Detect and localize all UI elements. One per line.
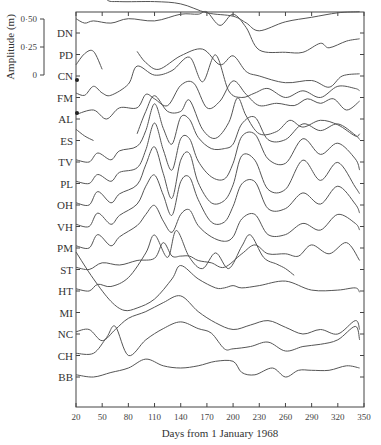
curve-st (76, 243, 360, 270)
curve-cn (137, 49, 360, 87)
x-tick-290: 290 (305, 412, 319, 422)
plot-frame (76, 12, 364, 407)
curve-oh (76, 147, 360, 206)
curve-bb (76, 359, 360, 377)
x-tick-350: 350 (357, 412, 371, 422)
curve-vh (76, 175, 360, 227)
y-axis-label: Amplitude (m) (4, 14, 17, 80)
curve-al (76, 81, 360, 119)
x-tick-170: 170 (200, 412, 214, 422)
x-tick-140: 140 (174, 412, 188, 422)
curve-tv (76, 104, 360, 162)
curve-dn (76, 0, 360, 31)
curve-ht (76, 231, 294, 292)
x-axis-label: Days from 1 January 1968 (162, 427, 279, 439)
x-tick-20: 20 (72, 412, 82, 422)
station-label-es: ES (60, 135, 73, 147)
station-label-al: AL (58, 113, 73, 125)
scale-tick-025: 0·25 (21, 42, 38, 52)
station-label-pd: PD (59, 49, 73, 61)
station-curves (75, 0, 360, 377)
station-label-bb: BB (58, 371, 73, 383)
x-tick-230: 230 (253, 412, 267, 422)
marker-dot-cn (75, 78, 79, 82)
station-label-pm: PM (57, 242, 73, 254)
curve-pm (76, 205, 360, 248)
x-tick-80: 80 (124, 412, 134, 422)
station-label-tv: TV (58, 156, 73, 168)
station-label-nc: NC (58, 328, 73, 340)
station-label-pl: PL (60, 178, 73, 190)
x-tick-260: 260 (279, 412, 293, 422)
x-tick-200: 200 (226, 412, 240, 422)
amplitude-chart: 0·50 0·25 0 Amplitude (m) DNPDCNFMALESTV… (0, 0, 381, 445)
station-label-st: ST (60, 264, 73, 276)
curve-es (76, 129, 94, 140)
curve-pd (76, 11, 360, 53)
curve-mi (76, 252, 360, 311)
curve-fm (76, 55, 360, 98)
station-label-dn: DN (57, 27, 73, 39)
station-label-vh: VH (57, 221, 73, 233)
station-label-cn: CN (58, 70, 73, 82)
x-tick-110: 110 (148, 412, 162, 422)
marker-dot-al (75, 111, 79, 115)
curve-cn (76, 50, 102, 69)
amplitude-scale: 0·50 0·25 0 Amplitude (m) (4, 14, 44, 80)
curve-pl (76, 123, 360, 184)
station-label-fm: FM (57, 92, 73, 104)
station-label-ch: CH (58, 350, 73, 362)
station-label-ht: HT (58, 285, 73, 297)
scale-tick-0: 0 (33, 70, 38, 80)
station-label-mi: MI (60, 307, 74, 319)
scale-tick-050: 0·50 (21, 14, 38, 24)
x-tick-320: 320 (331, 412, 345, 422)
x-tick-50: 50 (98, 412, 108, 422)
station-label-oh: OH (57, 199, 73, 211)
